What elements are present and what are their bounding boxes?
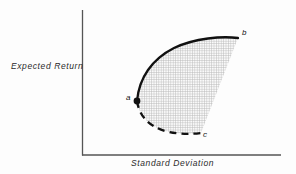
y-axis-label: Expected Return [11,61,83,71]
point-label-b: b [242,28,246,37]
feasible-region-fill [137,37,238,134]
feasible-region-group [137,37,238,134]
point-label-c: c [203,130,207,139]
point-label-a: a [126,93,130,102]
efficient-frontier-diagram: Expected Return Standard Deviation a b c [0,0,296,174]
point-a-marker [134,98,141,105]
points-group [134,98,141,105]
x-axis-label: Standard Deviation [131,158,214,168]
diagram-canvas [0,0,296,174]
